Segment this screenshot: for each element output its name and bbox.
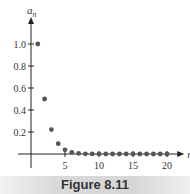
- x-tick-label: 20: [162, 160, 172, 171]
- data-point: [144, 152, 149, 157]
- y-tick-label: 1.0: [14, 39, 27, 50]
- data-point: [110, 152, 115, 157]
- y-tick-label: 0.4: [14, 105, 27, 116]
- data-point: [103, 152, 108, 157]
- data-point: [165, 152, 170, 157]
- x-tick-label: 15: [128, 160, 138, 171]
- sequence-plot: ann0.20.40.60.81.05101520: [0, 0, 190, 176]
- data-point: [97, 152, 102, 157]
- data-point: [69, 150, 74, 155]
- data-point: [56, 141, 61, 146]
- x-tick-label: 10: [94, 160, 104, 171]
- data-point: [76, 151, 81, 156]
- data-point: [131, 152, 136, 157]
- data-point: [90, 151, 95, 156]
- data-point: [151, 152, 156, 157]
- data-point: [63, 147, 68, 152]
- data-point: [124, 152, 129, 157]
- y-tick-label: 0.8: [14, 61, 27, 72]
- x-axis-label: n: [187, 148, 190, 160]
- figure-caption: Figure 8.11: [0, 176, 190, 194]
- data-point: [137, 152, 142, 157]
- y-axis-label: an: [27, 4, 37, 19]
- data-point: [83, 151, 88, 156]
- data-point: [49, 127, 54, 132]
- y-tick-label: 0.2: [14, 127, 27, 138]
- x-tick-label: 5: [63, 160, 68, 171]
- data-point: [35, 42, 40, 47]
- data-point: [158, 152, 163, 157]
- x-axis-arrow-icon: [177, 151, 184, 157]
- y-tick-label: 0.6: [14, 83, 27, 94]
- data-point: [42, 97, 47, 102]
- data-point: [117, 152, 122, 157]
